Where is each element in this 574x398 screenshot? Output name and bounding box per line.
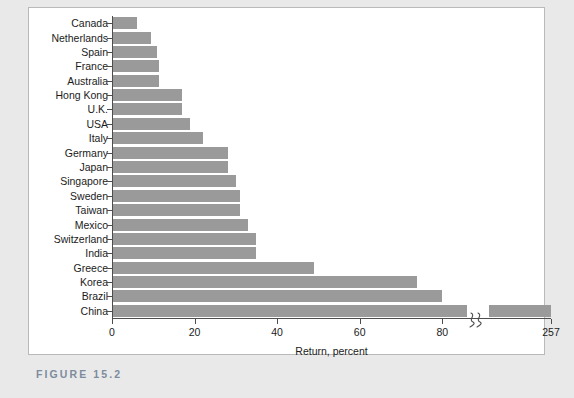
bar-segment-after-break xyxy=(489,305,551,317)
bar xyxy=(112,118,190,130)
x-axis-tick-label: 257 xyxy=(542,326,560,338)
x-axis-tick xyxy=(551,319,552,324)
bar-row xyxy=(112,132,551,144)
x-axis-tick-label: 40 xyxy=(271,326,283,338)
category-label: Australia xyxy=(67,75,108,87)
bar-row xyxy=(112,89,551,101)
category-label: Singapore xyxy=(60,175,108,187)
bar-row xyxy=(112,17,551,29)
y-axis-line xyxy=(112,16,113,319)
bar xyxy=(112,190,240,202)
figure-caption: FIGURE 15.2 xyxy=(36,368,122,380)
bar-row xyxy=(112,175,551,187)
bar-row xyxy=(112,233,551,245)
bar xyxy=(112,175,236,187)
bar-row xyxy=(112,204,551,216)
figure-panel: CanadaNetherlandsSpainFranceAustraliaHon… xyxy=(28,7,545,355)
bar xyxy=(112,276,417,288)
bar-row xyxy=(112,276,551,288)
bar xyxy=(112,247,256,259)
bar xyxy=(112,132,203,144)
bar xyxy=(112,161,228,173)
category-label: U.K. xyxy=(88,103,108,115)
bar-row xyxy=(112,75,551,87)
x-axis-tick-label: 80 xyxy=(436,326,448,338)
category-label: Greece xyxy=(74,262,108,274)
category-label: USA xyxy=(86,118,108,130)
bar xyxy=(112,89,182,101)
bar-row xyxy=(112,32,551,44)
category-label: Taiwan xyxy=(75,204,108,216)
bar xyxy=(112,147,228,159)
x-axis-tick xyxy=(442,319,443,324)
x-axis-tick-label: 0 xyxy=(109,326,115,338)
category-label: Japan xyxy=(79,161,108,173)
bar xyxy=(112,290,442,302)
bar-row xyxy=(112,118,551,130)
bar xyxy=(112,32,151,44)
x-axis-tick-label: 60 xyxy=(354,326,366,338)
bar-row xyxy=(112,262,551,274)
bar xyxy=(112,233,256,245)
x-axis-tick xyxy=(112,319,113,324)
category-label: Spain xyxy=(81,46,108,58)
x-axis-tick xyxy=(195,319,196,324)
bar-chart: CanadaNetherlandsSpainFranceAustraliaHon… xyxy=(29,8,544,354)
x-axis-tick xyxy=(277,319,278,324)
x-axis-title: Return, percent xyxy=(112,345,551,357)
category-label: China xyxy=(81,305,108,317)
x-axis-tick xyxy=(360,319,361,324)
category-label: India xyxy=(85,247,108,259)
bar-row xyxy=(112,161,551,173)
bar-row xyxy=(112,147,551,159)
bar xyxy=(112,60,159,72)
category-label: Netherlands xyxy=(51,32,108,44)
category-label: Sweden xyxy=(70,190,108,202)
bar xyxy=(112,219,248,231)
bar-row xyxy=(112,190,551,202)
category-label: Hong Kong xyxy=(55,89,108,101)
bar xyxy=(112,204,240,216)
bar xyxy=(112,75,159,87)
bar xyxy=(112,46,157,58)
plot-area xyxy=(112,16,521,318)
bar xyxy=(112,305,467,317)
category-label: Mexico xyxy=(75,219,108,231)
bar-row xyxy=(112,290,551,302)
bar xyxy=(112,103,182,115)
bar xyxy=(112,17,137,29)
category-axis-labels: CanadaNetherlandsSpainFranceAustraliaHon… xyxy=(29,8,108,354)
bar-row xyxy=(112,219,551,231)
bar xyxy=(112,262,314,274)
category-label: Italy xyxy=(89,132,108,144)
category-label: Canada xyxy=(71,17,108,29)
category-label: France xyxy=(75,60,108,72)
bar-row xyxy=(112,60,551,72)
category-label: Korea xyxy=(80,276,108,288)
category-label: Brazil xyxy=(82,290,108,302)
bar-row xyxy=(112,46,551,58)
axis-break-icon xyxy=(467,311,489,329)
bar-row xyxy=(112,103,551,115)
category-label: Switzerland xyxy=(54,233,108,245)
x-axis-tick-label: 20 xyxy=(189,326,201,338)
bar-row xyxy=(112,247,551,259)
category-label: Germany xyxy=(65,147,108,159)
